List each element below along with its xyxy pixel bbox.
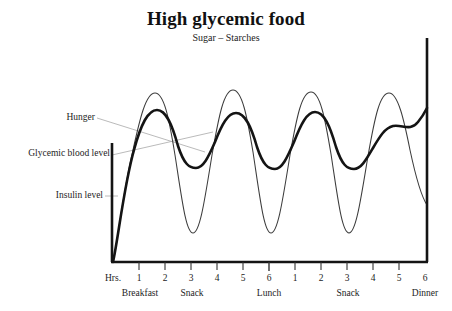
chart-page: High glycemic food Sugar – Starches (0, 0, 452, 311)
x-tick-label-3b: 3 (337, 273, 357, 283)
meal-label-dinner: Dinner (400, 288, 450, 298)
x-tick-label-1b: 1 (285, 273, 305, 283)
x-tick-label-6a: 6 (259, 273, 279, 283)
series-label-insulin-level: Insulin level (0, 190, 103, 200)
x-tick-label-1a: 1 (129, 273, 149, 283)
meal-label-lunch: Lunch (243, 288, 295, 298)
x-tick-label-6b: 6 (415, 273, 435, 283)
series-label-hunger: Hunger (0, 112, 95, 122)
label-leader-lines (97, 118, 213, 196)
x-tick-label-2b: 2 (311, 273, 331, 283)
chart-axes (111, 38, 428, 262)
x-tick-label-hrs: Hrs. (101, 273, 125, 283)
x-tick-label-3a: 3 (181, 273, 201, 283)
meal-label-breakfast: Breakfast (108, 288, 172, 298)
x-axis-ticks (139, 262, 399, 271)
x-tick-label-5a: 5 (233, 273, 253, 283)
meal-label-snack-1: Snack (164, 288, 220, 298)
x-tick-label-4a: 4 (207, 273, 227, 283)
series-insulin-level (113, 90, 427, 262)
series-label-glycemic-blood-level: Glycemic blood level (0, 148, 110, 158)
x-tick-label-5b: 5 (389, 273, 409, 283)
x-tick-label-4b: 4 (363, 273, 383, 283)
series-glycemic-blood-level (113, 108, 427, 262)
x-tick-label-2a: 2 (155, 273, 175, 283)
meal-label-snack-2: Snack (320, 288, 376, 298)
